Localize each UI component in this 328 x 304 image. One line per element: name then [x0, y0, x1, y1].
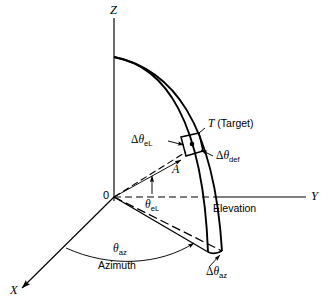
delta-theta-def-subscript: def [229, 155, 240, 164]
delta-theta-az-label: Δθaz [206, 266, 227, 280]
y-axis-label: Y [311, 190, 318, 203]
point-a-label: A [172, 163, 179, 175]
z-axis-label: Z [110, 4, 117, 17]
elevation-ray-to-point-a [114, 160, 181, 197]
radar-coordinate-diagram: Z Y X 0 T (Target) A ΔθeL Δθdef θeL Elev… [0, 0, 328, 304]
delta-theta-el-subscript: eL [144, 139, 152, 148]
diagram-canvas [0, 0, 328, 304]
theta-el-subscript: eL [151, 204, 159, 213]
delta-theta-def-label: Δθdef [216, 150, 240, 164]
theta-el-label: θeL [145, 199, 159, 213]
x-axis-label: X [10, 284, 18, 297]
target-label: T (Target) [208, 118, 254, 130]
x-axis-line [22, 197, 114, 288]
meridian-arc-near [114, 57, 208, 252]
target-word: (Target) [217, 117, 253, 129]
azimuth-text-label: Azimuth [98, 260, 136, 271]
elevation-text-label: Elevation [213, 203, 256, 214]
target-label-leader [199, 128, 205, 133]
theta-az-label: θaz [113, 243, 127, 257]
target-point-marker [190, 142, 195, 147]
delta-theta-az-subscript: az [219, 271, 227, 280]
arc-bottom-cap [208, 251, 222, 253]
delta-theta-el-label: ΔθeL [131, 134, 153, 148]
azimuth-ray-solid [114, 197, 208, 252]
origin-label: 0 [103, 190, 109, 201]
theta-az-subscript: az [119, 248, 127, 257]
